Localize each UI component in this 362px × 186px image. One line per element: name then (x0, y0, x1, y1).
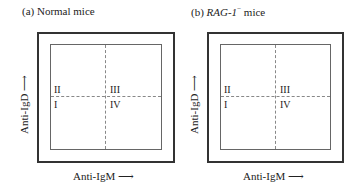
panel-b-x-axis-label: Anti-IgM ⟶ (243, 170, 304, 183)
panel-a-plot-area (50, 44, 162, 150)
panel-b-y-axis-text: Anti-IgD (188, 94, 200, 134)
panel-a-horizontal-gate (51, 96, 161, 97)
panel-a-y-axis-label: Anti-IgD ⟶ (18, 75, 31, 134)
panel-b-vertical-gate (275, 45, 276, 149)
panel-a-x-axis-text: Anti-IgM (73, 170, 115, 182)
panel-b-title-paren: (b) (191, 6, 207, 18)
panel-a-quadrant-III: III (110, 85, 120, 95)
panel-a-quadrant-II: II (54, 85, 61, 95)
arrow-up-icon: ⟶ (188, 75, 200, 91)
panel-b-quadrant-IV: IV (280, 100, 291, 110)
panel-a-x-axis-label: Anti-IgM ⟶ (73, 170, 134, 183)
arrow-right-icon: ⟶ (118, 170, 134, 182)
panel-b-quadrant-III: III (280, 85, 290, 95)
panel-a-vertical-gate (105, 45, 106, 149)
panel-a-title-text: (a) Normal mice (22, 5, 95, 17)
panel-a-title: (a) Normal mice (22, 5, 95, 17)
arrow-up-icon: ⟶ (18, 75, 30, 91)
panel-a-quadrant-IV: IV (110, 100, 121, 110)
panel-b-horizontal-gate (221, 96, 330, 97)
panel-a-quadrant-I: I (54, 100, 57, 110)
panel-a-y-axis-text: Anti-IgD (18, 94, 30, 134)
panel-b-y-axis-label: Anti-IgD ⟶ (188, 75, 201, 134)
panel-b-title: (b) RAG-1− mice (191, 5, 265, 18)
panel-b-title-suffix: mice (241, 6, 265, 18)
panel-b-x-axis-text: Anti-IgM (243, 170, 285, 182)
panel-b-quadrant-II: II (224, 85, 231, 95)
arrow-right-icon: ⟶ (288, 170, 304, 182)
panel-b-title-gene: RAG-1 (207, 6, 238, 18)
panel-b-quadrant-I: I (224, 100, 227, 110)
